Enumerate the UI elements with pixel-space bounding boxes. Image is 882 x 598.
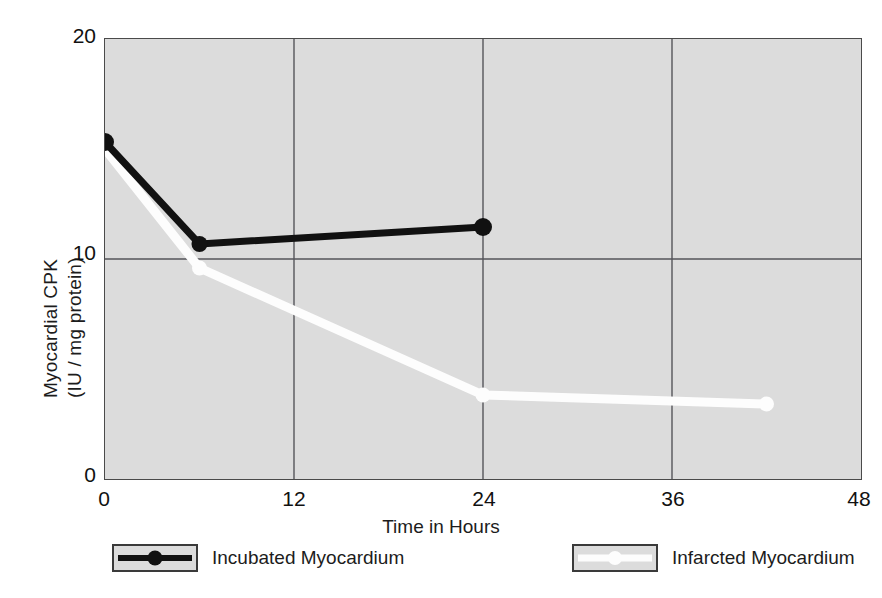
legend-entry-incubated: Incubated Myocardium	[112, 544, 404, 572]
chart-legend: Incubated Myocardium Infarcted Myocardiu…	[0, 544, 882, 584]
chart-figure: Myocardial CPK (IU / mg protein) 20 10 0	[0, 0, 882, 598]
legend-marker-black-line-dot	[114, 546, 196, 570]
data-point-incubated-24h	[474, 218, 492, 236]
series-incubated-myocardium	[105, 133, 492, 252]
series-line-infarcted	[105, 149, 767, 404]
y-tick-label-0: 0	[56, 463, 96, 487]
x-tick-label-48: 48	[834, 487, 882, 511]
legend-label-incubated: Incubated Myocardium	[212, 547, 404, 569]
legend-marker-white-line-dot	[574, 546, 656, 570]
legend-entry-infarcted: Infarcted Myocardium	[572, 544, 855, 572]
legend-label-infarcted: Infarcted Myocardium	[672, 547, 855, 569]
x-tick-label-36: 36	[648, 487, 698, 511]
plot-area	[104, 38, 862, 480]
x-tick-label-0: 0	[79, 487, 129, 511]
plot-canvas	[105, 39, 861, 479]
series-infarcted-myocardium	[105, 149, 774, 412]
data-point-infarcted-24h	[476, 388, 491, 403]
x-tick-label-24: 24	[459, 487, 509, 511]
x-axis-label: Time in Hours	[0, 516, 882, 538]
x-tick-label-12: 12	[269, 487, 319, 511]
y-tick-label-10: 10	[56, 241, 96, 265]
y-tick-label-20: 20	[56, 24, 96, 48]
legend-swatch-incubated	[112, 544, 198, 572]
gridlines	[105, 39, 861, 479]
data-point-incubated-6h	[192, 236, 208, 252]
legend-dot-white	[608, 551, 622, 565]
data-point-infarcted-6h	[192, 261, 207, 276]
legend-swatch-infarcted	[572, 544, 658, 572]
legend-dot-black	[148, 551, 163, 566]
data-point-infarcted-42h	[759, 397, 774, 412]
